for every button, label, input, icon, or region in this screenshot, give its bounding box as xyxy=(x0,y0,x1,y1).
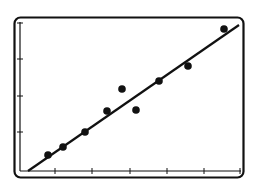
data-point xyxy=(59,143,67,151)
data-points xyxy=(44,25,228,159)
axes xyxy=(17,22,241,174)
trendline-path xyxy=(28,25,239,171)
data-point xyxy=(184,62,192,70)
data-point xyxy=(118,85,126,93)
trendline xyxy=(28,25,239,171)
data-point xyxy=(155,77,163,85)
data-point xyxy=(132,106,140,114)
scatter-chart xyxy=(0,0,256,184)
data-point xyxy=(220,25,228,33)
data-point xyxy=(103,107,111,115)
data-point xyxy=(44,151,52,159)
data-point xyxy=(81,128,89,136)
